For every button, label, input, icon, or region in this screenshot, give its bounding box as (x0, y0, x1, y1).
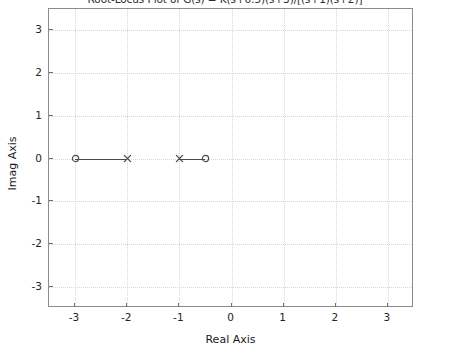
locus-branch (75, 159, 127, 160)
gridline-horizontal (49, 30, 412, 31)
x-axis-label: Real Axis (48, 333, 413, 346)
x-tick-label: 0 (227, 311, 234, 323)
y-tick (49, 158, 53, 159)
gridline-vertical (388, 9, 389, 306)
y-tick-label: -3 (42, 280, 52, 292)
y-tick-label: 0 (42, 152, 49, 164)
chart-title: Root-Locus Plot of G(s) = K(s+0.5)(s+3)/… (0, 0, 450, 5)
y-tick (49, 115, 53, 116)
gridline-horizontal (49, 116, 412, 117)
plot-area (48, 8, 413, 307)
y-tick-label: -1 (42, 194, 52, 206)
zero-marker-circle-icon (71, 154, 80, 163)
x-tick-label: 3 (384, 311, 391, 323)
zero-marker-circle-icon (201, 154, 210, 163)
x-tick (126, 303, 127, 307)
pole-marker-x-icon (175, 154, 184, 163)
x-tick (178, 303, 179, 307)
gridline-vertical (336, 9, 337, 306)
y-tick-label: 3 (42, 23, 49, 35)
root-locus-figure: Root-Locus Plot of G(s) = K(s+0.5)(s+3)/… (0, 0, 450, 351)
x-tick (387, 303, 388, 307)
gridline-horizontal (49, 287, 412, 288)
y-tick-label: 2 (42, 66, 49, 78)
y-tick-label: -2 (42, 237, 52, 249)
gridline-horizontal (49, 201, 412, 202)
x-tick (231, 303, 232, 307)
gridline-horizontal (49, 244, 412, 245)
y-tick (49, 29, 53, 30)
gridline-vertical (232, 9, 233, 306)
gridline-vertical (284, 9, 285, 306)
y-tick (49, 72, 53, 73)
y-axis-label: Imag Axis (6, 119, 19, 209)
x-tick (335, 303, 336, 307)
x-tick-label: -2 (121, 311, 131, 323)
x-tick-label: 1 (279, 311, 286, 323)
y-tick-label: 1 (42, 109, 49, 121)
x-tick (74, 303, 75, 307)
x-tick (283, 303, 284, 307)
gridline-horizontal (49, 73, 412, 74)
x-tick-label: 2 (331, 311, 338, 323)
x-tick-label: -3 (69, 311, 79, 323)
x-tick-label: -1 (173, 311, 183, 323)
pole-marker-x-icon (123, 154, 132, 163)
